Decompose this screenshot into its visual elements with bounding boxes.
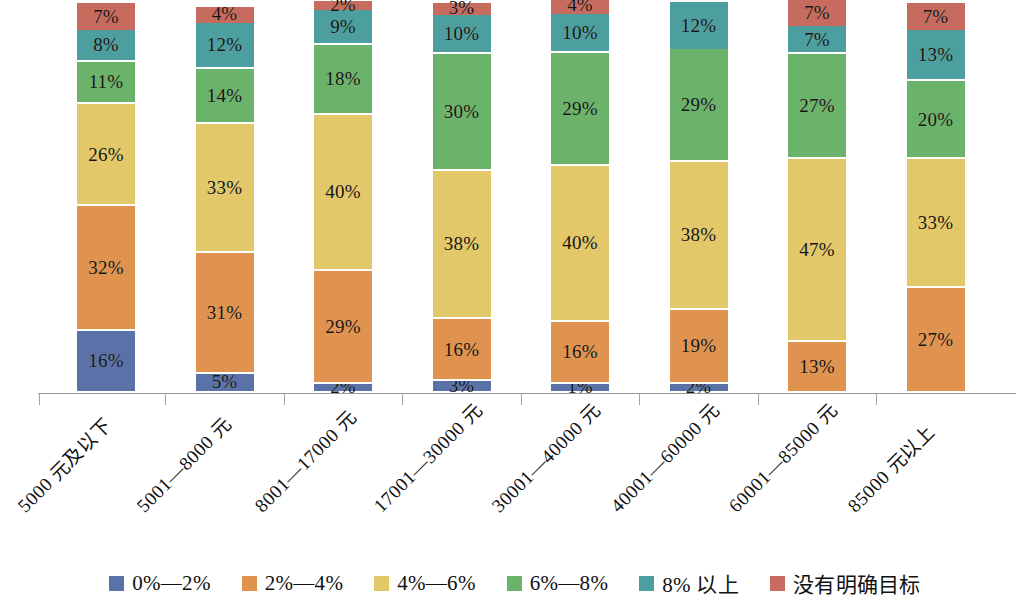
bar-segment[interactable]: 12%: [670, 2, 728, 49]
bar-segment[interactable]: 29%: [670, 49, 728, 162]
legend-item[interactable]: 没有明确目标: [770, 568, 921, 598]
bar-segment[interactable]: 5%: [196, 374, 254, 394]
bar-segment-label: 14%: [207, 86, 242, 105]
plot-area: 16%32%26%11%8%7%5%31%33%14%12%4%2%29%40%…: [0, 0, 1030, 393]
bar-column[interactable]: 5%31%33%14%12%4%: [196, 7, 254, 393]
bar-segment[interactable]: 16%: [433, 319, 491, 381]
legend-swatch: [109, 576, 124, 591]
bar-segment-label: 11%: [89, 72, 124, 91]
bar-column[interactable]: 16%32%26%11%8%7%: [77, 3, 135, 393]
bar-segment[interactable]: 10%: [433, 15, 491, 54]
bar-segment[interactable]: 11%: [77, 62, 135, 105]
bar-segment[interactable]: 7%: [788, 0, 846, 26]
bar-column[interactable]: 27%33%20%13%7%: [907, 3, 965, 393]
bar-segment[interactable]: 18%: [314, 45, 372, 115]
bar-segment-label: 33%: [207, 178, 242, 197]
bar-segment-label: 2%: [330, 0, 356, 14]
bar-column[interactable]: 3%16%38%30%10%3%: [433, 3, 491, 393]
bar-column[interactable]: 2%19%38%29%12%: [670, 2, 728, 393]
legend-item[interactable]: 8% 以上: [639, 568, 739, 598]
bar-segment[interactable]: 2%: [314, 384, 372, 393]
bar-segment[interactable]: 4%: [196, 7, 254, 23]
legend-label: 没有明确目标: [793, 568, 921, 598]
x-axis-line: [38, 393, 1016, 394]
bar-segment-label: 38%: [681, 225, 716, 244]
bar-segment-label: 4%: [567, 0, 593, 14]
bar-segment[interactable]: 47%: [788, 159, 846, 342]
bar-segment-label: 4%: [212, 4, 238, 23]
legend-item[interactable]: 2%—4%: [242, 571, 344, 596]
bar-segment-label: 12%: [681, 16, 716, 35]
bar-segment-label: 16%: [444, 340, 479, 359]
bar-segment[interactable]: 3%: [433, 381, 491, 393]
category-label: 5000 元及以下: [10, 411, 116, 517]
bar-segment-label: 26%: [88, 145, 123, 164]
bar-segment[interactable]: 27%: [907, 288, 965, 393]
bar-segment[interactable]: 32%: [77, 206, 135, 331]
legend-label: 6%—8%: [530, 571, 609, 596]
bar-segment-label: 16%: [562, 342, 597, 361]
bar-segment[interactable]: 16%: [551, 322, 609, 384]
bar-segment[interactable]: 8%: [77, 30, 135, 61]
legend-item[interactable]: 4%—6%: [374, 571, 476, 596]
bar-column[interactable]: 1%16%40%29%10%4%: [551, 0, 609, 393]
bar-segment[interactable]: 4%: [551, 0, 609, 14]
bar-segment[interactable]: 33%: [196, 124, 254, 253]
bar-segment[interactable]: 3%: [433, 3, 491, 15]
bar-segment[interactable]: 12%: [196, 23, 254, 70]
category-label: 40001—60000 元: [603, 396, 724, 517]
bar-segment[interactable]: 13%: [907, 30, 965, 81]
bar-segment[interactable]: 2%: [314, 1, 372, 10]
bar-segment-label: 40%: [562, 233, 597, 252]
bar-segment[interactable]: 38%: [670, 162, 728, 310]
bar-segment-label: 10%: [562, 23, 597, 42]
bar-segment-label: 5%: [212, 372, 238, 391]
legend-label: 2%—4%: [265, 571, 344, 596]
bar-column[interactable]: 13%47%27%7%7%: [788, 0, 846, 393]
bar-segment[interactable]: 30%: [433, 54, 491, 171]
legend-item[interactable]: 6%—8%: [507, 571, 609, 596]
bar-segment-label: 27%: [799, 96, 834, 115]
legend-swatch: [374, 576, 389, 591]
bar-segment[interactable]: 19%: [670, 310, 728, 384]
bar-segment[interactable]: 20%: [907, 81, 965, 159]
bar-segment-label: 3%: [449, 0, 475, 17]
bar-segment[interactable]: 10%: [551, 14, 609, 53]
legend-item[interactable]: 0%—2%: [109, 571, 211, 596]
bar-segment[interactable]: 13%: [788, 342, 846, 393]
bar-segment-label: 16%: [88, 351, 123, 370]
bar-segment[interactable]: 7%: [77, 3, 135, 30]
bar-segment-label: 13%: [799, 357, 834, 376]
bar-segment[interactable]: 38%: [433, 171, 491, 319]
bar-segment[interactable]: 29%: [551, 53, 609, 166]
bar-segment-label: 8%: [93, 35, 119, 54]
legend-swatch: [770, 576, 785, 591]
bar-segment[interactable]: 14%: [196, 69, 254, 124]
bar-segment[interactable]: 26%: [77, 104, 135, 205]
bar-segment-label: 29%: [562, 99, 597, 118]
bar-column[interactable]: 2%29%40%18%9%2%: [314, 1, 372, 393]
bar-segment[interactable]: 1%: [551, 384, 609, 393]
legend-swatch: [507, 576, 522, 591]
bar-segment-label: 10%: [444, 24, 479, 43]
bar-segment[interactable]: 16%: [77, 331, 135, 393]
bar-segment-label: 19%: [681, 336, 716, 355]
bar-segment[interactable]: 40%: [314, 115, 372, 271]
bar-segment[interactable]: 27%: [788, 54, 846, 159]
bar-segment-label: 31%: [207, 303, 242, 322]
bar-segment-label: 29%: [681, 95, 716, 114]
bar-segment[interactable]: 7%: [907, 3, 965, 30]
bar-segment-label: 30%: [444, 102, 479, 121]
bar-segment[interactable]: 40%: [551, 166, 609, 322]
stacked-bar-chart: 16%32%26%11%8%7%5%31%33%14%12%4%2%29%40%…: [0, 0, 1030, 601]
bar-segment[interactable]: 29%: [314, 271, 372, 384]
bar-segment[interactable]: 9%: [314, 10, 372, 45]
bar-segment[interactable]: 2%: [670, 384, 728, 393]
legend-swatch: [242, 576, 257, 591]
bar-segment[interactable]: 33%: [907, 159, 965, 288]
category-label: 5001—8000 元: [129, 410, 236, 517]
bar-segment[interactable]: 31%: [196, 253, 254, 374]
bar-segment-label: 7%: [923, 7, 949, 26]
category-label: 17001—30000 元: [366, 396, 487, 517]
bar-segment[interactable]: 7%: [788, 26, 846, 53]
